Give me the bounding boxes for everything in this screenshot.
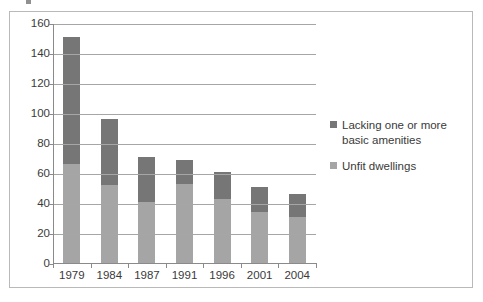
bar-2001: [251, 187, 268, 264]
x-axis-tick-label-2001: 2001: [247, 270, 273, 282]
legend-item-0: Lacking one or more basic amenities: [330, 118, 470, 148]
y-axis-labels: 020406080100120140160: [10, 24, 50, 264]
bar-1996: [214, 172, 231, 264]
x-axis-tick: [166, 263, 167, 268]
y-axis-tick-label: 120: [31, 78, 50, 90]
bar-1979: [63, 37, 80, 264]
bar-segment-unfit-dwellings: [63, 164, 80, 263]
legend-item-1: Unfit dwellings: [330, 159, 470, 174]
bar-1991: [176, 160, 193, 264]
bar-segment-lacking-amenities: [214, 172, 231, 199]
y-axis-tick: [49, 144, 54, 145]
cropped-text-artifact: [26, 0, 31, 4]
x-axis-tick: [128, 263, 129, 268]
x-axis-tick: [203, 263, 204, 268]
gridline: [53, 174, 316, 175]
bar-1987: [138, 157, 155, 264]
gridline: [53, 84, 316, 85]
x-axis-tick-label-1996: 1996: [209, 270, 235, 282]
x-axis-tick-label-1991: 1991: [172, 270, 198, 282]
gridline: [53, 114, 316, 115]
legend-swatch-icon: [330, 162, 337, 169]
gridline: [53, 24, 316, 25]
y-axis-tick: [49, 54, 54, 55]
legend-label: Lacking one or more basic amenities: [342, 118, 460, 148]
x-axis-labels: 1979198419871991199620012004: [53, 270, 316, 290]
x-axis-tick-label-2004: 2004: [284, 270, 310, 282]
x-axis-tick: [278, 263, 279, 268]
bar-segment-unfit-dwellings: [138, 202, 155, 264]
y-axis-tick-label: 100: [31, 108, 50, 120]
y-axis-tick: [49, 84, 54, 85]
gridline: [53, 54, 316, 55]
x-axis-tick: [241, 263, 242, 268]
gridline: [53, 144, 316, 145]
y-axis-tick: [49, 234, 54, 235]
bar-segment-unfit-dwellings: [176, 184, 193, 264]
x-axis-tick-label-1979: 1979: [59, 270, 85, 282]
bar-1984: [101, 119, 118, 263]
chart-legend: Lacking one or more basic amenitiesUnfit…: [330, 118, 470, 186]
bar-segment-unfit-dwellings: [251, 212, 268, 263]
gridline: [53, 234, 316, 235]
x-axis-tick-label-1984: 1984: [97, 270, 123, 282]
gridline: [53, 204, 316, 205]
legend-label: Unfit dwellings: [342, 159, 416, 174]
bar-segment-lacking-amenities: [138, 157, 155, 202]
bar-segment-lacking-amenities: [101, 119, 118, 185]
x-axis-tick: [91, 263, 92, 268]
y-axis-tick: [49, 114, 54, 115]
y-axis-tick: [49, 204, 54, 205]
chart-container: 020406080100120140160 197919841987199119…: [9, 11, 473, 288]
x-axis-tick: [53, 263, 54, 268]
bar-segment-unfit-dwellings: [289, 217, 306, 264]
bar-segment-unfit-dwellings: [214, 199, 231, 264]
x-axis-tick-label-1987: 1987: [134, 270, 160, 282]
y-axis-tick-label: 140: [31, 48, 50, 60]
plot-area: [53, 24, 316, 264]
bar-segment-lacking-amenities: [251, 187, 268, 213]
legend-swatch-icon: [330, 121, 337, 128]
x-axis-tick: [316, 263, 317, 268]
bar-segment-lacking-amenities: [289, 194, 306, 217]
bar-segment-lacking-amenities: [176, 160, 193, 184]
chart-plot-wrapper: 020406080100120140160 197919841987199119…: [10, 12, 472, 287]
bar-segment-unfit-dwellings: [101, 185, 118, 263]
y-axis-tick: [49, 174, 54, 175]
y-axis-tick: [49, 24, 54, 25]
y-axis-tick-label: 160: [31, 18, 50, 30]
